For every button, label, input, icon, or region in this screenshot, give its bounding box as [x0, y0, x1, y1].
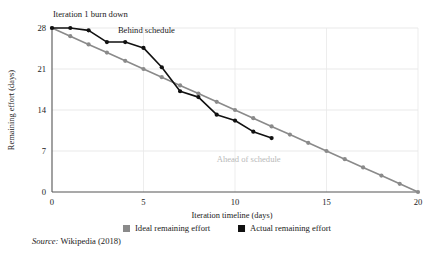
series-marker [196, 95, 200, 99]
series-marker [306, 141, 310, 145]
series-marker [270, 136, 274, 140]
chart-svg: 0714212805101520 Behind scheduleAhead of… [0, 0, 439, 263]
x-tick-label: 5 [141, 197, 145, 207]
x-tick-label: 15 [322, 197, 331, 207]
series-marker [324, 149, 328, 153]
y-tick-label: 14 [37, 105, 46, 115]
series-marker [416, 190, 420, 194]
y-axis-label: Remaining effort (days) [7, 70, 16, 151]
y-tick-label: 21 [37, 64, 46, 74]
y-tick-label: 7 [42, 146, 47, 156]
source-text: Wikipedia (2018) [60, 236, 121, 246]
series-marker [343, 157, 347, 161]
legend-swatch [123, 225, 130, 232]
series-marker [288, 133, 292, 137]
x-tick-label: 0 [50, 197, 54, 207]
legend-label: Actual remaining effort [250, 223, 332, 233]
series-marker [398, 182, 402, 186]
series-marker [105, 51, 109, 55]
legend-label: Ideal remaining effort [135, 223, 211, 233]
series-marker [87, 42, 91, 46]
series-marker [178, 89, 182, 93]
x-tick-label: 20 [414, 197, 423, 207]
series-marker [105, 40, 109, 44]
series-marker [270, 124, 274, 128]
y-tick-label: 28 [37, 23, 46, 33]
series-marker [215, 100, 219, 104]
series-marker [251, 130, 255, 134]
series-marker [141, 67, 145, 71]
series-marker [233, 118, 237, 122]
series-marker [251, 116, 255, 120]
x-tick-label: 10 [231, 197, 240, 207]
burn-down-chart-figure: 0714212805101520 Behind scheduleAhead of… [0, 0, 439, 263]
series-marker [233, 108, 237, 112]
series-marker [160, 65, 164, 69]
series-marker [215, 113, 219, 117]
series-marker [87, 28, 91, 32]
source-keyword: Source: [32, 236, 58, 246]
series-marker [50, 26, 54, 30]
series-marker [178, 83, 182, 87]
source-caption: Source: Wikipedia (2018) [32, 236, 121, 246]
annotation-behind-schedule: Behind schedule [118, 25, 175, 35]
series-marker [68, 34, 72, 38]
series-marker [361, 165, 365, 169]
chart-title: Iteration 1 burn down [53, 9, 128, 19]
series-marker [141, 46, 145, 50]
series-marker [123, 59, 127, 63]
y-tick-label: 0 [42, 187, 46, 197]
annotation-ahead-schedule: Ahead of schedule [217, 154, 281, 164]
legend-swatch [238, 225, 245, 232]
x-axis-label: Iteration timeline (days) [192, 211, 273, 220]
series-marker [68, 26, 72, 30]
series-marker [123, 40, 127, 44]
series-marker [160, 75, 164, 79]
figure-background [0, 0, 439, 263]
series-marker [379, 174, 383, 178]
